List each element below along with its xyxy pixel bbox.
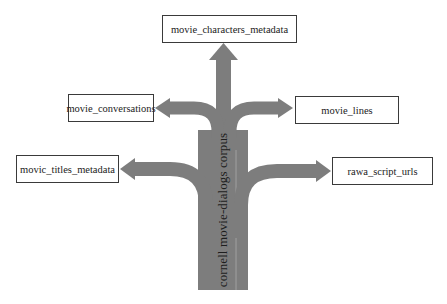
arrow-to-scripts — [241, 160, 331, 238]
node-label: movie_lines — [321, 105, 372, 116]
node-rawa-script-urls: rawa_script_urls — [332, 157, 433, 185]
node-label: rawa_script_urls — [348, 166, 418, 177]
node-label: movie_conversations — [66, 103, 155, 114]
node-movie-conversations: movie_conversations — [68, 94, 154, 122]
node-movie-titles-metadata: movic_titles_metadata — [16, 155, 119, 183]
arrow-to-titles — [120, 158, 206, 238]
node-label: movic_titles_metadata — [20, 164, 115, 175]
corpus-structure-diagram: cornell movie-dialogs corpus movie_chara… — [0, 0, 447, 304]
node-movie-characters-metadata: movie_characters_metadata — [162, 15, 297, 43]
node-label: movie_characters_metadata — [171, 24, 288, 35]
node-movie-lines: movie_lines — [295, 96, 399, 124]
root-label: cornell movie-dialogs corpus — [215, 133, 231, 287]
